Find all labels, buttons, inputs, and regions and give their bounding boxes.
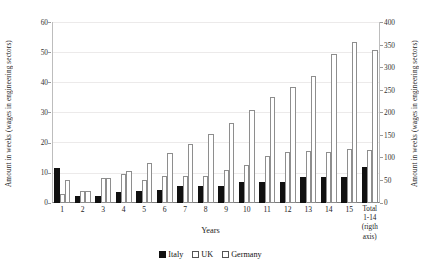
y-axis-left-tickmark: [48, 203, 51, 204]
x-axis-tick-label: 14: [319, 205, 340, 242]
bar-group: [73, 22, 94, 203]
x-axis-tick-line: 10: [237, 205, 258, 214]
legend-swatch-icon: [222, 251, 229, 258]
bar-group: [93, 22, 114, 203]
bar-group: [360, 22, 381, 203]
x-axis-tick-label: 11: [257, 205, 278, 242]
bar-group: [114, 22, 135, 203]
x-axis-tick-line: 6: [155, 205, 176, 214]
y-axis-left-tick: 0: [26, 199, 48, 206]
legend-label: Italy: [168, 250, 183, 259]
bar-germany: [372, 50, 377, 203]
y-axis-left-tickmark: [48, 112, 51, 113]
bar-germany: [249, 110, 254, 203]
bar-group: [257, 22, 278, 203]
y-axis-left-tickmark: [48, 173, 51, 174]
x-axis-tick-label: 2: [73, 205, 94, 242]
y-axis-left-tickmark: [48, 52, 51, 53]
y-axis-left-tick: 10: [26, 169, 48, 176]
bar-group: [175, 22, 196, 203]
bar-germany: [311, 76, 316, 203]
bar-group: [278, 22, 299, 203]
y-axis-right-tick: 50: [384, 177, 408, 184]
bar-germany: [85, 191, 90, 203]
x-axis-tick-label: 12: [278, 205, 299, 242]
x-axis-tick-line: Total: [360, 205, 381, 214]
x-axis-tick-label: 15: [339, 205, 360, 242]
x-axis-tick-line: 2: [73, 205, 94, 214]
x-axis-tick-line: 8: [196, 205, 217, 214]
x-axis-tick-label: 5: [134, 205, 155, 242]
y-axis-right-tickmark: [380, 157, 383, 158]
x-axis-tick-label: 8: [196, 205, 217, 242]
y-axis-right-tick: 350: [384, 42, 408, 49]
bar-group: [155, 22, 176, 203]
y-axis-right-tickmark: [380, 67, 383, 68]
x-axis-ticks: 123456789101112131415Total1-14(rigthaxis…: [52, 205, 380, 242]
bar-germany: [147, 163, 152, 203]
y-axis-right-tickmark: [380, 135, 383, 136]
bar-group: [134, 22, 155, 203]
x-axis-tick-label: 4: [114, 205, 135, 242]
x-axis-tick-line: 12: [278, 205, 299, 214]
y-axis-right-tick: 200: [384, 109, 408, 116]
bar-germany: [270, 97, 275, 203]
x-axis-tick-line: 9: [216, 205, 237, 214]
legend-item-uk: UK: [192, 250, 213, 259]
x-axis-tick-label: 7: [175, 205, 196, 242]
y-axis-right-tick: 150: [384, 132, 408, 139]
bar-germany: [352, 42, 357, 203]
chart-legend: Italy UK Germany: [0, 250, 421, 259]
bar-germany: [290, 87, 295, 203]
chart-figure: Amount in weeks (wages in engineering se…: [0, 0, 421, 275]
bar-group: [298, 22, 319, 203]
bar-germany: [331, 54, 336, 203]
bar-group: [196, 22, 217, 203]
y-axis-left-tickmark: [48, 22, 51, 23]
x-axis-title: Years: [0, 226, 421, 235]
x-axis-tick-line: 11: [257, 205, 278, 214]
bar-group: [216, 22, 237, 203]
bar-group: [319, 22, 340, 203]
y-axis-right-tick: 250: [384, 87, 408, 94]
bar-germany: [188, 144, 193, 203]
bar-germany: [106, 178, 111, 203]
y-axis-left-tickmark: [48, 82, 51, 83]
x-axis-tick-line: 15: [339, 205, 360, 214]
bar-germany: [208, 134, 213, 203]
x-axis-tick-label: 1: [52, 205, 73, 242]
y-axis-right-tickmark: [380, 180, 383, 181]
x-axis-tick-line: 7: [175, 205, 196, 214]
x-axis-tick-label: 6: [155, 205, 176, 242]
x-axis-tick-label: 13: [298, 205, 319, 242]
y-axis-left-tick: 40: [26, 79, 48, 86]
y-axis-right-title: Amount in weeks (wages in engineering se…: [410, 24, 419, 204]
y-axis-right-tickmark: [380, 45, 383, 46]
y-axis-right-tick: 300: [384, 64, 408, 71]
y-axis-right-tickmark: [380, 203, 383, 204]
x-axis-tick-line: 1-14: [360, 214, 381, 223]
bar-group: [52, 22, 73, 203]
bar-groups: [52, 22, 380, 203]
y-axis-left-tick: 50: [26, 49, 48, 56]
legend-label: Germany: [231, 250, 261, 259]
x-axis-tick-line: 5: [134, 205, 155, 214]
bar-group: [339, 22, 360, 203]
y-axis-right-tickmark: [380, 90, 383, 91]
x-axis-tick-line: 14: [319, 205, 340, 214]
legend-item-italy: Italy: [159, 250, 183, 259]
y-axis-left-tickmark: [48, 143, 51, 144]
y-axis-right-tick: 0: [384, 199, 408, 206]
legend-swatch-icon: [159, 251, 166, 258]
bar-germany: [167, 153, 172, 203]
y-axis-right-tickmark: [380, 112, 383, 113]
x-axis-tick-label: 10: [237, 205, 258, 242]
x-axis-tick-label: 3: [93, 205, 114, 242]
y-axis-left-title: Amount in weeks (wages in engineering se…: [4, 24, 13, 204]
bar-germany: [126, 171, 131, 203]
x-axis-tick-line: 3: [93, 205, 114, 214]
legend-label: UK: [201, 250, 213, 259]
y-axis-left-tick: 20: [26, 139, 48, 146]
bar-germany: [65, 180, 70, 203]
x-axis-tick-label: 9: [216, 205, 237, 242]
